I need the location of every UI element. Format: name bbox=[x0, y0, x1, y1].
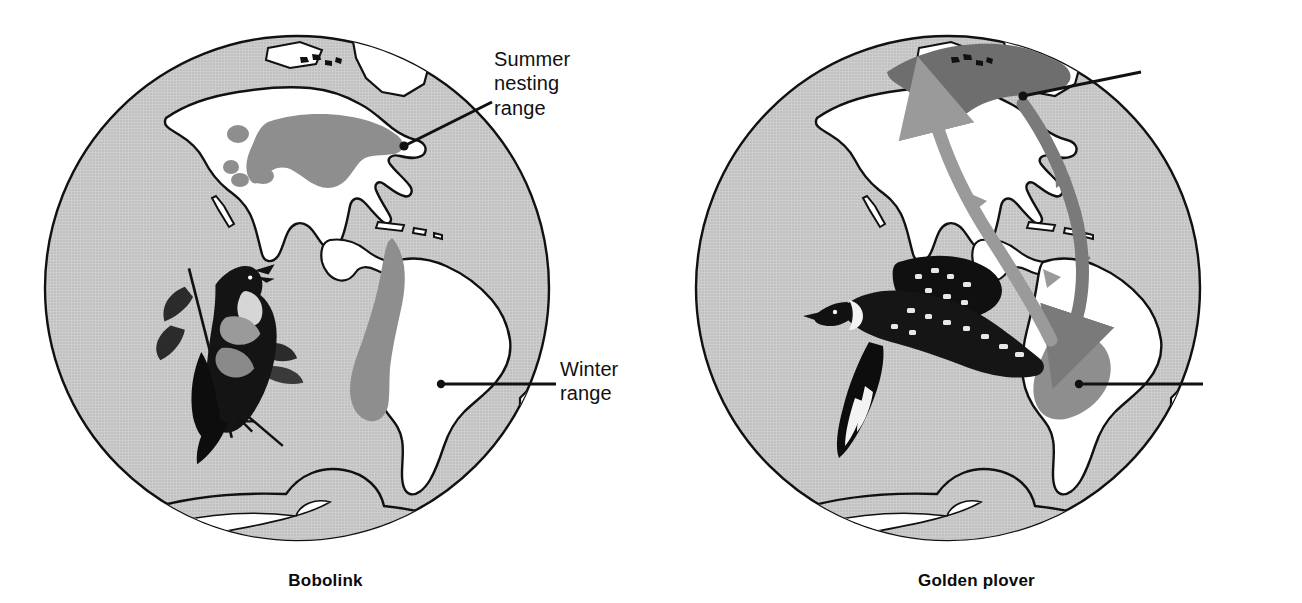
summer-range-label-bobolink: Summer nesting range bbox=[494, 47, 570, 120]
summer-range-outlier-1 bbox=[227, 125, 249, 143]
winter-leader-dot bbox=[437, 380, 445, 388]
caption-bobolink: Bobolink bbox=[0, 571, 651, 591]
winter-leader-dot bbox=[1075, 380, 1083, 388]
winter-range-label-bobolink: Winter range bbox=[560, 357, 618, 406]
panel-bobolink: Summer nesting range Winter range Boboli… bbox=[0, 0, 651, 603]
panel-golden-plover: Summer nesting range Winter range Golden… bbox=[651, 0, 1302, 603]
summer-range-outlier-3 bbox=[231, 173, 249, 187]
migration-figure: Summer nesting range Winter range Boboli… bbox=[0, 0, 1302, 603]
summer-range-outlier-2 bbox=[223, 160, 239, 174]
summer-leader-dot bbox=[1018, 91, 1027, 100]
caption-golden-plover: Golden plover bbox=[651, 571, 1302, 591]
summer-range-outlier-4 bbox=[252, 168, 274, 184]
summer-leader-dot bbox=[399, 141, 408, 150]
